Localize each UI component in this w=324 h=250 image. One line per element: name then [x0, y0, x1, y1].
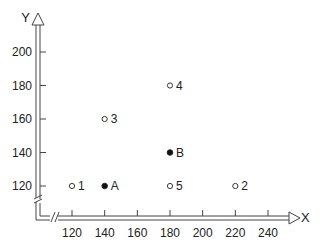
x-axis-arrow — [289, 212, 300, 224]
y-axis-break — [34, 195, 42, 203]
x-axis-break — [51, 212, 59, 222]
y-tick-label: 160 — [12, 112, 32, 126]
x-tick-label: 120 — [62, 226, 82, 240]
filled-point — [102, 183, 108, 189]
axis-corner — [36, 217, 50, 220]
y-axis-line — [36, 24, 40, 199]
y-tick-label: 140 — [12, 146, 32, 160]
point-label: 3 — [111, 112, 118, 126]
x-tick-label: 180 — [160, 226, 180, 240]
x-tick-label: 220 — [225, 226, 245, 240]
open-point — [167, 83, 172, 88]
axis-corner-inner — [40, 214, 50, 216]
y-axis-label: Y — [21, 10, 30, 25]
open-point — [167, 183, 172, 188]
point-label: B — [176, 146, 184, 160]
x-tick-label: 140 — [95, 226, 115, 240]
point-label: 5 — [176, 179, 183, 193]
ticks: 120140160180200220240120140160180200 — [12, 45, 278, 240]
y-tick-label: 120 — [12, 179, 32, 193]
scatter-chart: 120140160180200220240120140160180200 123… — [0, 0, 324, 250]
y-tick-label: 200 — [12, 45, 32, 59]
point-label: 1 — [78, 179, 85, 193]
points: 12345AB — [69, 79, 248, 194]
y-tick-label: 180 — [12, 79, 32, 93]
y-axis-arrow — [32, 13, 44, 25]
x-axis-label: X — [301, 210, 310, 225]
filled-point — [167, 150, 173, 156]
axes — [32, 13, 300, 224]
open-point — [102, 116, 107, 121]
open-point — [69, 183, 74, 188]
x-tick-label: 160 — [127, 226, 147, 240]
open-point — [233, 183, 238, 188]
y-axis-lower — [36, 202, 40, 217]
x-tick-label: 240 — [258, 226, 278, 240]
x-axis-line — [58, 216, 290, 220]
point-label: 4 — [176, 79, 183, 93]
x-tick-label: 200 — [193, 226, 213, 240]
point-label: A — [111, 179, 119, 193]
point-label: 2 — [241, 179, 248, 193]
